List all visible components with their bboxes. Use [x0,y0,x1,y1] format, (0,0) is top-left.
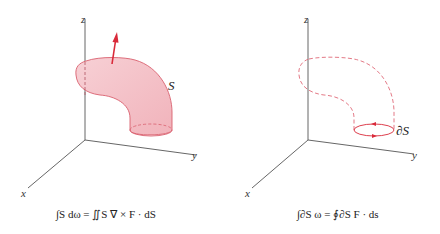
y-axis-label: y [411,149,417,161]
y-axis [308,140,414,154]
surface-S [76,58,172,137]
x-axis [28,140,85,188]
axes-right: z y x [244,13,417,199]
right-panel: z y x ∂S [244,13,417,199]
boundary-label: ∂S [396,123,409,138]
x-axis-label: x [244,187,250,199]
y-axis [85,140,196,155]
orientation-arrow-bottom [372,134,377,138]
surface-label-S: S [168,78,175,93]
y-axis-label: y [191,149,197,161]
dashed-surface-outline [299,57,394,130]
x-axis [252,140,308,188]
formula-right: ∫∂S ω = ∮∂S F · ds [297,208,379,221]
z-axis-label: z [303,13,309,25]
formula-left: ∫S dω = ∬S ∇ × F · dS [56,208,156,221]
boundary-curve-dS [354,122,394,138]
z-axis-label: z [80,13,86,25]
x-axis-label: x [20,187,26,199]
stokes-theorem-diagram: z y x S z y x [0,0,440,234]
left-panel: z y x S [20,13,197,199]
orientation-arrow-top [371,122,376,126]
